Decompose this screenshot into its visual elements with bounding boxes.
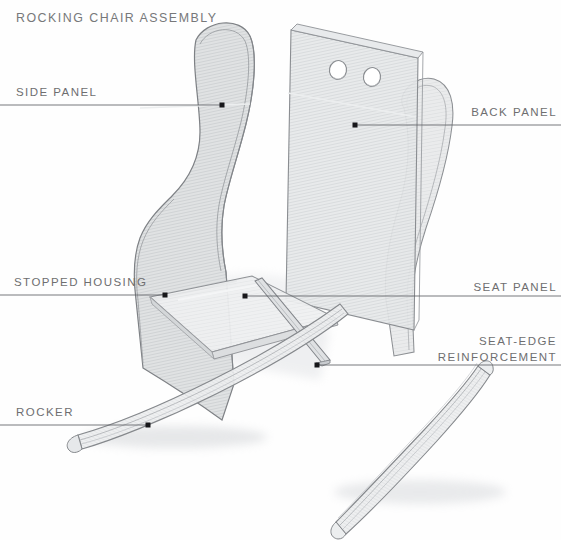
leader-dots	[146, 103, 358, 428]
label-side-panel: Side Panel	[16, 85, 97, 99]
dot-back-panel	[353, 123, 358, 128]
label-back-panel: Back Panel	[471, 105, 557, 119]
dot-seat-panel	[243, 294, 248, 299]
label-rocker: Rocker	[16, 405, 74, 419]
label-stopped-housing: Stopped Housing	[14, 275, 147, 289]
dot-seat-edge-reinforcement	[315, 363, 320, 368]
dot-stopped-housing	[163, 293, 168, 298]
page-title: Rocking Chair Assembly	[16, 11, 217, 25]
illustration-canvas: Rocking Chair Assembly Side Panel Back P…	[0, 0, 561, 540]
label-seat-edge: Seat-edge	[479, 334, 557, 348]
label-seat-panel: Seat Panel	[473, 280, 557, 294]
dot-side-panel	[220, 103, 225, 108]
callout-overlay	[0, 0, 561, 540]
label-reinforcement: Reinforcement	[438, 350, 557, 364]
leader-lines	[0, 105, 561, 425]
dot-rocker	[146, 423, 151, 428]
